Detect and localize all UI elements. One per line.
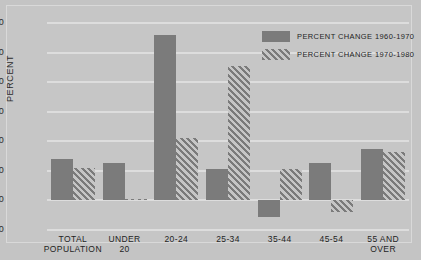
y-axis-title: PERCENT [5,55,15,102]
solid-swatch-icon [262,31,290,42]
bar-1970-1980 [331,200,353,212]
y-axis-tick-label: 30 [0,106,4,116]
legend-label-1970-1980: PERCENT CHANGE 1970-1980 [297,50,414,59]
legend-item-1960-1970: PERCENT CHANGE 1960-1970 [262,30,410,43]
x-axis-category-label: 55 AND OVER [338,234,421,254]
y-axis-tick-label: 20 [0,135,4,145]
bar-1960-1970 [361,149,383,201]
bar-1960-1970 [103,163,125,200]
bar-1960-1970 [258,200,280,216]
bar-1970-1980 [125,199,147,200]
hatched-swatch-icon [262,49,290,60]
legend-label-1960-1970: PERCENT CHANGE 1960-1970 [297,32,414,41]
bar-1970-1980 [280,169,302,200]
bar-1970-1980 [383,152,405,201]
y-axis-tick-label: 10 [0,165,4,175]
y-axis-tick-label: 0 [0,194,4,204]
y-axis-tick-label: 60 [0,17,4,27]
chart-legend: PERCENT CHANGE 1960-1970 PERCENT CHANGE … [262,30,410,66]
chart-frame: PERCENT -100102030405060 TOTAL POPULATIO… [6,5,412,243]
bar-1960-1970 [309,163,331,200]
bar-1970-1980 [73,168,95,201]
bar-1960-1970 [154,35,176,201]
y-axis-tick-label: 50 [0,47,4,57]
y-axis-tick-label: 40 [0,76,4,86]
gridline [47,22,409,24]
y-axis-tick-label: -10 [0,224,4,234]
bar-1970-1980 [176,138,198,200]
bar-1960-1970 [206,169,228,200]
gridline [47,229,409,231]
bar-1970-1980 [228,66,250,201]
legend-item-1970-1980: PERCENT CHANGE 1970-1980 [262,48,410,61]
chart-figure: PERCENT -100102030405060 TOTAL POPULATIO… [0,0,421,260]
bar-1960-1970 [51,159,73,200]
